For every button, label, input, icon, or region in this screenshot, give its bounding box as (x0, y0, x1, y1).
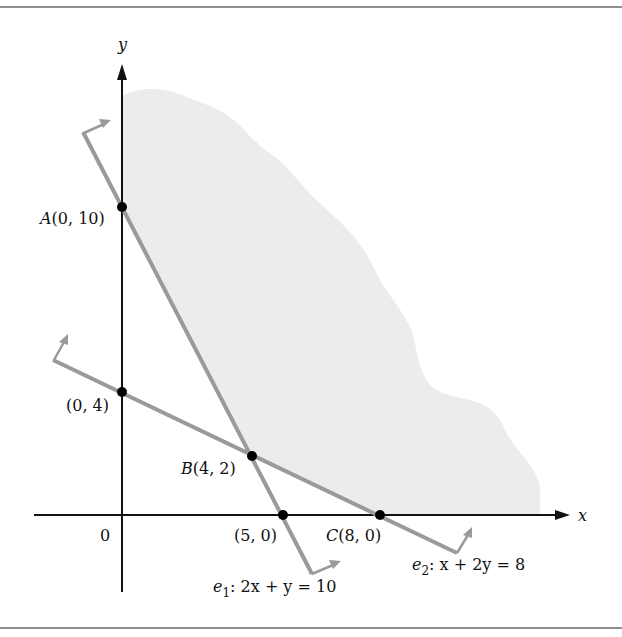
point-C (375, 510, 385, 520)
y-axis-label: y (117, 35, 128, 54)
point-0-4 (117, 387, 127, 397)
e2-normal-arrow-bottom (457, 535, 468, 553)
point-B (247, 451, 257, 461)
feasible-region (122, 89, 540, 515)
label-A: A(0, 10) (38, 209, 105, 228)
origin-label: 0 (100, 526, 110, 545)
x-axis-arrowhead-icon (555, 510, 570, 520)
figure-frame: y x 0 A(0, 10) (0, 4) B(4, 2) (5, 0) C(8… (0, 0, 622, 637)
e1-normal-arrow (84, 124, 104, 133)
e2-arrowhead-icon (59, 334, 68, 345)
e2-arrowhead-bottom-icon (463, 527, 472, 538)
point-A (117, 202, 127, 212)
x-axis-label: x (578, 506, 587, 525)
y-axis-arrowhead-icon (117, 64, 127, 80)
e1-normal-arrow-bottom (312, 565, 333, 574)
label-e1: e1: 2x + y = 10 (213, 577, 336, 600)
label-0-4: (0, 4) (66, 396, 109, 415)
label-B: B(4, 2) (180, 459, 236, 478)
e2-normal-arrow (54, 342, 64, 360)
label-5-0: (5, 0) (234, 526, 277, 545)
e1-arrowhead-bottom-icon (329, 560, 341, 569)
label-C: C(8, 0) (326, 526, 381, 545)
point-5-0 (278, 510, 288, 520)
label-e2: e2: x + 2y = 8 (412, 555, 525, 578)
diagram: y x 0 A(0, 10) (0, 4) B(4, 2) (5, 0) C(8… (0, 0, 622, 637)
